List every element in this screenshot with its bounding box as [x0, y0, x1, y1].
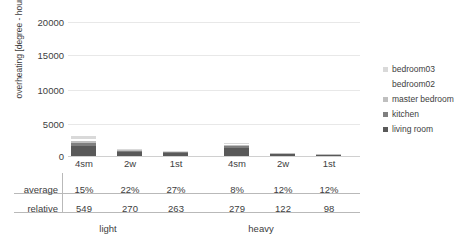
legend-item-bedroom02: bedroom02 [383, 77, 473, 92]
bar-seg-living-room [117, 152, 142, 156]
bar-heavy-2w [270, 153, 295, 156]
bar-seg-living-room [163, 153, 188, 156]
table-cell-average-heavy-1st: 12% [306, 184, 352, 195]
bar-seg-living-room [270, 154, 295, 156]
table-cell-relative-light-4sm: 549 [61, 203, 107, 214]
x-tick-light-1st: 1st [153, 158, 199, 169]
table-row-label-average: average [4, 184, 58, 195]
axis-baseline [68, 156, 360, 157]
chart-figure: 20000 15000 10000 5000 0 overheating [de… [0, 0, 473, 248]
y-axis-label: overheating [degree - hours] [14, 0, 24, 110]
x-tick-light-2w: 2w [107, 158, 153, 169]
bar-heavy-1st [316, 154, 341, 156]
x-tick-heavy-1st: 1st [306, 158, 352, 169]
bar-light-4sm [71, 136, 96, 156]
x-tick-heavy-4sm: 4sm [214, 158, 260, 169]
table-cell-relative-heavy-1st: 98 [306, 203, 352, 214]
y-tick-5000: 5000 [43, 119, 64, 130]
table-cell-average-light-2w: 22% [107, 184, 153, 195]
legend-swatch-icon [383, 127, 388, 132]
bar-light-2w [117, 149, 142, 156]
bar-seg-living-room [316, 155, 341, 156]
table-cell-relative-heavy-2w: 122 [260, 203, 306, 214]
legend-item-bedroom03: bedroom03 [383, 62, 473, 77]
legend-label: living room [392, 125, 433, 134]
table-cell-relative-light-2w: 270 [107, 203, 153, 214]
chart-plot-area: 20000 15000 10000 5000 0 overheating [de… [0, 0, 473, 165]
x-tick-light-4sm: 4sm [61, 158, 107, 169]
legend-item-master-bedroom: master bedroom [383, 92, 473, 107]
bar-heavy-4sm [224, 143, 249, 156]
bars-plot: 4sm 2w 1st 4sm 2w 1st [68, 0, 360, 165]
legend-label: bedroom02 [392, 80, 435, 89]
table-cell-average-light-4sm: 15% [61, 184, 107, 195]
table-cell-average-light-1st: 27% [153, 184, 199, 195]
chart-legend: bedroom03 bedroom02 master bedroom kitch… [383, 62, 473, 137]
bar-seg-living-room [71, 146, 96, 156]
legend-item-living-room: living room [383, 122, 473, 137]
table-row-label-relative: relative [4, 203, 58, 214]
bar-light-1st [163, 151, 188, 156]
legend-swatch-icon [383, 67, 388, 72]
bar-seg-living-room [224, 148, 249, 156]
table-cell-relative-light-1st: 263 [153, 203, 199, 214]
legend-swatch-icon [383, 112, 388, 117]
legend-label: bedroom03 [392, 65, 435, 74]
group-label-light: light [38, 223, 178, 234]
table-cell-average-heavy-4sm: 8% [214, 184, 260, 195]
table-cell-average-heavy-2w: 12% [260, 184, 306, 195]
bar-series-container [68, 0, 360, 156]
summary-table: average relative 15% 22% 27% 8% 12% 12% … [0, 172, 473, 248]
x-tick-heavy-2w: 2w [260, 158, 306, 169]
legend-item-kitchen: kitchen [383, 107, 473, 122]
legend-label: master bedroom [392, 95, 454, 104]
y-tick-10000: 10000 [38, 85, 64, 96]
table-cell-relative-heavy-4sm: 279 [214, 203, 260, 214]
legend-swatch-icon [383, 97, 388, 102]
legend-label: kitchen [392, 110, 419, 119]
group-label-heavy: heavy [191, 223, 331, 234]
y-tick-20000: 20000 [38, 17, 64, 28]
y-tick-15000: 15000 [38, 50, 64, 61]
legend-swatch-icon [383, 82, 388, 87]
